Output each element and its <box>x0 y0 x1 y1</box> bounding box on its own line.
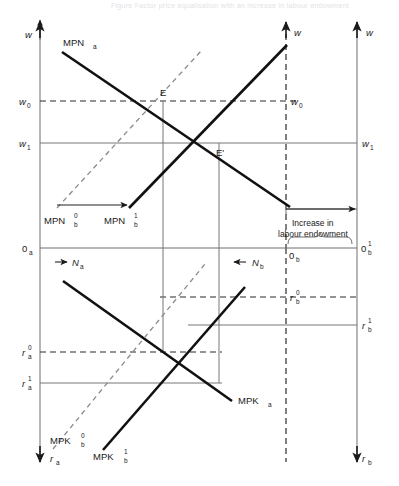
tick-w0-left-sub: 0 <box>27 102 31 109</box>
tick-w1-right: w <box>362 138 370 149</box>
axis-label-rb-sub: b <box>368 459 372 466</box>
tick-rb1-sup: 1 <box>368 317 372 324</box>
upper-labels: w w w w 0 w 1 w 0 w 1 MPN a MPN b 0 MPN … <box>19 27 374 228</box>
curve-label-mpn-a: MPN <box>63 37 84 48</box>
tick-w0-right-sub: 0 <box>299 102 303 109</box>
curve-mpn-b1 <box>129 45 287 208</box>
curve-mpk-b1 <box>103 287 245 450</box>
curve-label-mpk-b1-sup: 1 <box>124 448 128 455</box>
tick-ra0-sup: 0 <box>28 344 32 351</box>
origin-label-b-sub: b <box>296 256 300 263</box>
curve-label-mpk-a-sub: a <box>268 401 272 408</box>
axis-label-ra-sub: a <box>56 459 60 466</box>
flow-label-na: N <box>72 257 79 268</box>
axis-label-w-mid: w <box>294 27 302 38</box>
curve-label-mpk-b0-sub: b <box>81 441 85 448</box>
axis-label-rb: r <box>362 453 366 464</box>
origin-label-b-prime-sup: 1 <box>368 240 372 247</box>
economics-diagram: w w w w 0 w 1 w 0 w 1 MPN a MPN b 0 MPN … <box>0 0 399 486</box>
lower-level-lines <box>40 248 357 383</box>
figure-root: Figure Factor price equalisation with an… <box>0 0 399 486</box>
origin-label-a-sub: a <box>29 249 33 256</box>
curve-label-mpk-b0-sup: 0 <box>81 432 85 439</box>
tick-ra0: r <box>22 347 26 358</box>
flow-label-nb-sub: b <box>260 263 264 270</box>
tick-ra0-sub: a <box>28 353 32 360</box>
upper-curves <box>57 45 290 208</box>
equilibrium-label-e-prime: E' <box>216 147 224 158</box>
tick-rb0-sup: 0 <box>296 289 300 296</box>
axis-label-w-right: w <box>366 27 374 38</box>
curve-label-mpn-b1: MPN <box>104 215 125 226</box>
tick-w1-left-sub: 1 <box>27 144 31 151</box>
origin-label-b-prime: 0 <box>361 243 366 254</box>
curve-label-mpn-b1-sup: 1 <box>134 212 138 219</box>
tick-ra1-sup: 1 <box>28 375 32 382</box>
annotation-line1: Increase in <box>292 218 334 228</box>
tick-w1-left: w <box>19 138 27 149</box>
axes-group <box>40 20 357 462</box>
curve-label-mpk-b0: MPK <box>50 435 71 446</box>
axis-label-ra: r <box>50 453 54 464</box>
tick-rb0-sub: b <box>296 298 300 305</box>
tick-w1-right-sub: 1 <box>370 144 374 151</box>
tick-rb1-sub: b <box>368 326 372 333</box>
tick-rb1: r <box>362 320 366 331</box>
flow-label-nb: N <box>252 257 259 268</box>
origin-label-b-prime-sub: b <box>368 249 372 256</box>
tick-w0-left: w <box>19 96 27 107</box>
curve-label-mpk-a: MPK <box>238 395 259 406</box>
curve-mpn-b0 <box>57 50 202 208</box>
lower-curves <box>53 264 245 450</box>
origin-label-a: 0 <box>22 243 27 254</box>
curve-label-mpk-b1: MPK <box>93 451 114 462</box>
tick-w0-right: w <box>291 96 299 107</box>
curve-label-mpn-b0-sup: 0 <box>74 212 78 219</box>
curve-label-mpn-b0-sub: b <box>74 221 78 228</box>
labour-endowment-annotation: Increase in labour endowment <box>278 209 357 244</box>
tick-ra1-sub: a <box>28 384 32 391</box>
origin-label-b: 0 <box>289 250 294 261</box>
curve-mpn-a <box>62 52 290 207</box>
equilibrium-label-e: E <box>160 87 166 98</box>
curve-label-mpn-b1-sub: b <box>134 221 138 228</box>
origin-labels: 0 a 0 b 0 b 1 N a N b <box>22 240 372 270</box>
tick-ra1: r <box>22 378 26 389</box>
flow-label-na-sub: a <box>80 263 84 270</box>
axis-label-w-left: w <box>25 29 33 40</box>
curve-label-mpn-b0: MPN <box>44 215 65 226</box>
curve-label-mpk-b1-sub: b <box>124 457 128 464</box>
curve-label-mpn-a-sub: a <box>93 43 97 50</box>
